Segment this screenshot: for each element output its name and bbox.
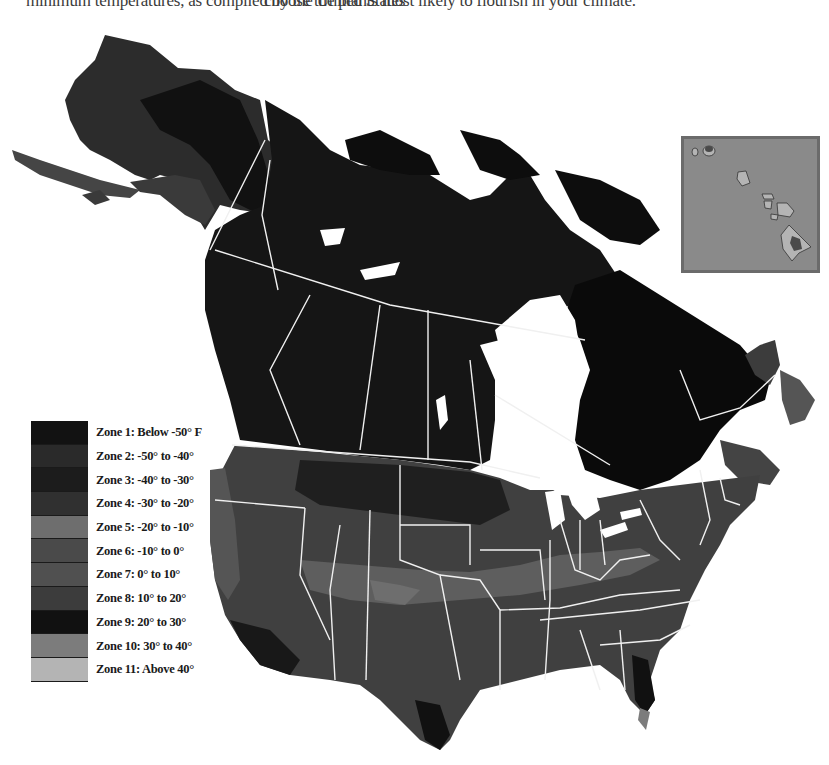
legend-item-zone-5: Zone 5: -20° to -10°	[31, 516, 202, 540]
zone-9-swatch	[31, 611, 88, 635]
legend-item-zone-4: Zone 4: -30° to -20°	[31, 492, 202, 516]
zone-10-swatch	[31, 634, 88, 658]
zone-4-label: Zone 4: -30° to -20°	[96, 496, 194, 511]
legend-item-zone-10: Zone 10: 30° to 40°	[31, 634, 202, 658]
zone-7-swatch	[31, 563, 88, 587]
hawaii-inset	[681, 136, 820, 273]
legend-item-zone-8: Zone 8: 10° to 20°	[31, 587, 202, 611]
zone-3-label: Zone 3: -40° to -30°	[96, 473, 194, 488]
zone-5-label: Zone 5: -20° to -10°	[96, 520, 194, 535]
legend-item-zone-7: Zone 7: 0° to 10°	[31, 563, 202, 587]
legend-item-zone-9: Zone 9: 20° to 30°	[31, 611, 202, 635]
legend-item-zone-11: Zone 11: Above 40°	[31, 658, 202, 682]
zone-4-swatch	[31, 492, 88, 516]
zone-9-label: Zone 9: 20° to 30°	[96, 615, 186, 630]
united-states-region	[210, 445, 760, 750]
zone-10-label: Zone 10: 30° to 40°	[96, 639, 192, 654]
zone-2-label: Zone 2: -50° to -40°	[96, 449, 194, 464]
zone-2-swatch	[31, 445, 88, 469]
legend-item-zone-1: Zone 1: Below -50° F	[31, 421, 202, 445]
zone-8-swatch	[31, 587, 88, 611]
zone-legend: Zone 1: Below -50° F Zone 2: -50° to -40…	[31, 421, 202, 682]
legend-item-zone-6: Zone 6: -10° to 0°	[31, 539, 202, 563]
zone-6-swatch	[31, 539, 88, 563]
alaska-region	[12, 35, 280, 230]
zone-3-swatch	[31, 468, 88, 492]
zone-1-label: Zone 1: Below -50° F	[96, 425, 202, 440]
zone-5-swatch	[31, 516, 88, 540]
zone-6-label: Zone 6: -10° to 0°	[96, 544, 184, 559]
zone-1-swatch	[31, 421, 88, 445]
hawaii-islands	[684, 139, 817, 270]
legend-item-zone-2: Zone 2: -50° to -40°	[31, 445, 202, 469]
legend-item-zone-3: Zone 3: -40° to -30°	[31, 468, 202, 492]
zone-11-swatch	[31, 658, 88, 682]
zone-7-label: Zone 7: 0° to 10°	[96, 567, 180, 582]
zone-11-label: Zone 11: Above 40°	[96, 662, 194, 677]
zone-8-label: Zone 8: 10° to 20°	[96, 591, 186, 606]
